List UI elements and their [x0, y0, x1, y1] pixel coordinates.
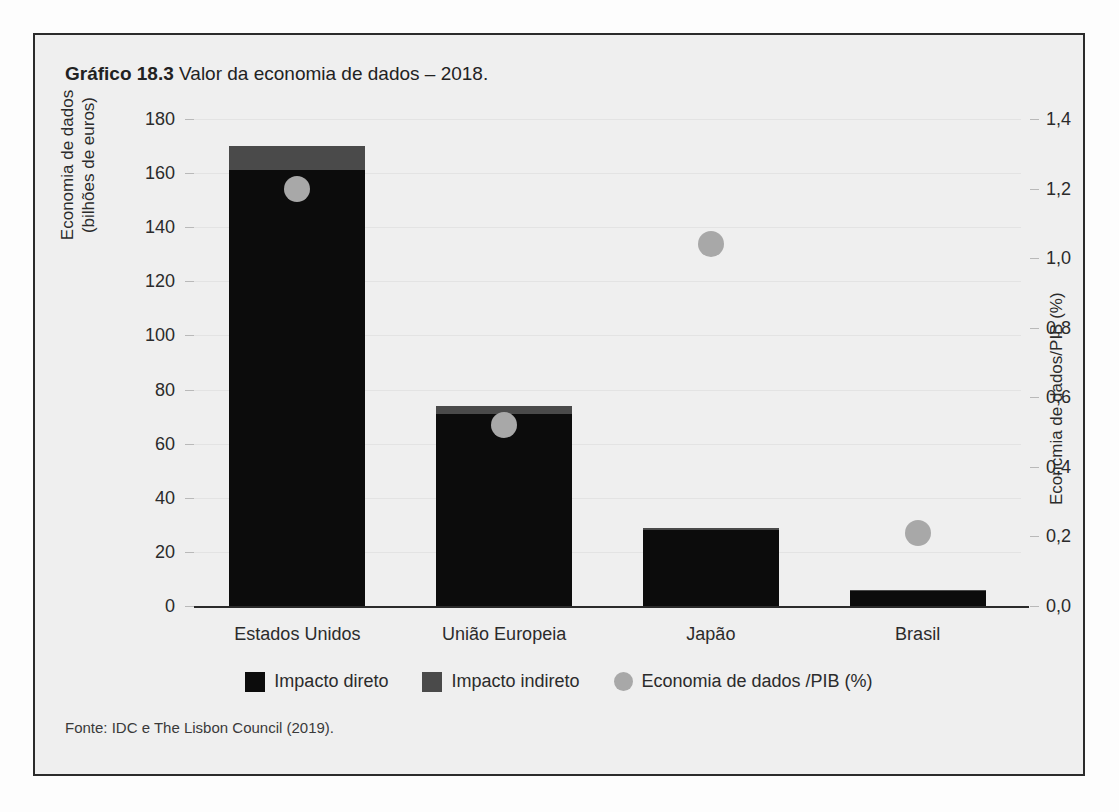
- figure-source: Fonte: IDC e The Lisbon Council (2019).: [65, 719, 334, 736]
- square-gray-icon: [422, 672, 442, 692]
- y-axis-left-tick-mark: [185, 173, 194, 174]
- page-background: Gráfico 18.3 Valor da economia de dados …: [0, 0, 1119, 812]
- y-axis-left-tick-label: 60: [155, 433, 175, 454]
- y-axis-right-tick-mark: [1030, 119, 1039, 120]
- y-axis-right-tick-mark: [1030, 328, 1039, 329]
- y-axis-left-tick-label: 80: [155, 379, 175, 400]
- x-axis-category-label: Brasil: [895, 624, 940, 645]
- y-axis-right-tick-label: 1,0: [1046, 248, 1071, 269]
- y-axis-left-tick-mark: [185, 390, 194, 391]
- bar-segment-impacto-indireto[interactable]: [229, 146, 365, 170]
- scatter-dot-3[interactable]: [698, 231, 724, 257]
- y-axis-left-title-line1: Economia de dados: [57, 55, 78, 275]
- y-axis-left-tick-label: 160: [145, 163, 175, 184]
- y-axis-right-tick-mark: [1030, 606, 1039, 607]
- x-axis-category-label: Japão: [686, 624, 735, 645]
- legend-label-impacto-indireto: Impacto indireto: [451, 671, 579, 692]
- y-axis-left-tick-mark: [185, 444, 194, 445]
- scatter-dot-1[interactable]: [284, 176, 310, 202]
- y-axis-right-tick-mark: [1030, 536, 1039, 537]
- y-axis-left-tick-mark: [185, 498, 194, 499]
- y-axis-left-title: Economia de dados (bilhões de euros): [57, 55, 100, 275]
- bar-segment-impacto-direto[interactable]: [436, 414, 572, 606]
- y-axis-right-tick-mark: [1030, 258, 1039, 259]
- y-axis-left-tick-mark: [185, 119, 194, 120]
- y-axis-right-tick-mark: [1030, 189, 1039, 190]
- legend-label-economia-pib: Economia de dados /PIB (%): [642, 671, 873, 692]
- y-axis-left-tick-label: 180: [145, 109, 175, 130]
- y-axis-right-tick-mark: [1030, 397, 1039, 398]
- bar-group-4[interactable]: [850, 590, 986, 606]
- plot-area: 0204060801001201401601800,00,20,40,60,81…: [194, 119, 1021, 606]
- y-axis-right-tick-label: 0,6: [1046, 387, 1071, 408]
- scatter-dot-4[interactable]: [905, 520, 931, 546]
- legend-label-impacto-direto: Impacto direto: [274, 671, 388, 692]
- square-black-icon: [245, 672, 265, 692]
- bar-segment-impacto-direto[interactable]: [850, 591, 986, 606]
- x-axis-category-label: União Europeia: [442, 624, 566, 645]
- bar-segment-impacto-direto[interactable]: [229, 170, 365, 606]
- legend-item-impacto-direto: Impacto direto: [245, 671, 388, 692]
- y-axis-left-tick-mark: [185, 606, 194, 607]
- legend-item-impacto-indireto: Impacto indireto: [422, 671, 579, 692]
- legend-item-economia-pib: Economia de dados /PIB (%): [614, 671, 873, 692]
- y-axis-left-tick-label: 20: [155, 541, 175, 562]
- y-axis-right-tick-label: 1,4: [1046, 109, 1071, 130]
- y-axis-right-tick-label: 0,2: [1046, 526, 1071, 547]
- bar-segment-impacto-indireto[interactable]: [850, 590, 986, 591]
- y-axis-left-tick-mark: [185, 552, 194, 553]
- figure-caption: Gráfico 18.3 Valor da economia de dados …: [65, 63, 488, 85]
- bar-group-1[interactable]: [229, 146, 365, 606]
- y-axis-right-tick-label: 1,2: [1046, 178, 1071, 199]
- y-axis-left-title-line2: (bilhões de euros): [78, 55, 99, 275]
- x-axis-line: [194, 606, 1029, 608]
- y-axis-left-tick-mark: [185, 281, 194, 282]
- figure-frame: Gráfico 18.3 Valor da economia de dados …: [33, 33, 1085, 776]
- chart-legend: Impacto direto Impacto indireto Economia…: [35, 671, 1083, 692]
- y-axis-left-tick-label: 0: [165, 596, 175, 617]
- bar-segment-impacto-indireto[interactable]: [643, 528, 779, 531]
- gridline: [194, 119, 1021, 120]
- caption-text: Valor da economia de dados – 2018.: [179, 63, 488, 84]
- y-axis-left-tick-mark: [185, 227, 194, 228]
- y-axis-right-tick-label: 0,8: [1046, 317, 1071, 338]
- y-axis-left-tick-label: 40: [155, 487, 175, 508]
- y-axis-left-tick-label: 120: [145, 271, 175, 292]
- y-axis-left-tick-label: 140: [145, 217, 175, 238]
- y-axis-left-tick-label: 100: [145, 325, 175, 346]
- x-axis-category-label: Estados Unidos: [234, 624, 360, 645]
- y-axis-right-tick-mark: [1030, 467, 1039, 468]
- y-axis-right-tick-label: 0,4: [1046, 456, 1071, 477]
- y-axis-left-tick-mark: [185, 335, 194, 336]
- circle-gray-icon: [614, 672, 633, 691]
- bar-group-3[interactable]: [643, 528, 779, 606]
- scatter-dot-2[interactable]: [491, 412, 517, 438]
- bar-segment-impacto-direto[interactable]: [643, 530, 779, 606]
- y-axis-right-tick-label: 0,0: [1046, 596, 1071, 617]
